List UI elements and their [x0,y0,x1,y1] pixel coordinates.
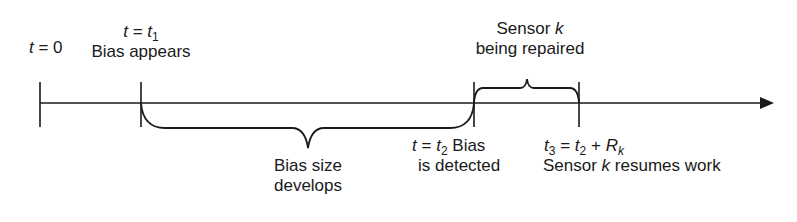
label-t1: t = t1 Bias appears [82,22,200,62]
t2-var: t [412,136,417,155]
repair-line1: Sensor [496,19,550,38]
t3-desc-k: k [602,156,611,175]
t0-eq: = 0 [38,38,62,57]
repair-k: k [555,19,564,38]
brace-repair [474,79,579,103]
t1-var: t [123,22,128,41]
t3-desc-pre: Sensor [543,156,597,175]
t3-r: R [606,136,618,155]
t2-eq: = [421,136,431,155]
t2-desc1: Bias [452,136,485,155]
t3-desc-post: resumes work [615,156,721,175]
develops-line2: develops [258,176,358,196]
develops-line1: Bias size [258,156,358,176]
label-bias-develops: Bias size develops [258,156,358,196]
label-repair-interval: Sensor k being repaired [465,19,595,59]
label-t2: t = t2 Bias is detected [412,136,500,176]
repair-line2: being repaired [465,39,595,59]
t1-description: Bias appears [82,42,200,62]
t0-var: t [29,38,34,57]
axis-arrowhead-icon [760,97,774,109]
t3-eq: = [560,136,570,155]
t1-eq: = [133,22,143,41]
label-t0: t = 0 [29,38,63,58]
t2-desc2: is detected [412,156,500,176]
label-t3: t3 = t2 + Rk Sensor k resumes work [543,136,721,176]
t3-plus: + [591,136,601,155]
